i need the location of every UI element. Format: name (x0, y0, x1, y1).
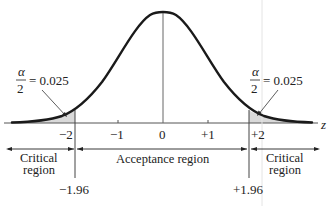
svg-text:= 0.025: = 0.025 (263, 73, 303, 88)
tick-label-plus-1: +1 (201, 127, 215, 142)
right-region-line2: region (269, 163, 302, 177)
svg-text:α: α (252, 64, 260, 79)
axis-variable-label: z (320, 117, 326, 132)
lower-critical-value: −1.96 (59, 182, 90, 197)
left-region-line2: region (23, 163, 56, 177)
left-alpha-label: α 2 = 0.025 (16, 64, 69, 96)
tick-label-minus-1: −1 (110, 127, 124, 142)
acceptance-region-label: Acceptance region (116, 152, 210, 166)
svg-text:α: α (18, 64, 26, 79)
right-alpha-pointer (258, 90, 278, 115)
svg-text:2: 2 (251, 81, 258, 96)
tick-label-plus-2: +2 (251, 127, 265, 142)
left-alpha-pointer (42, 90, 66, 116)
svg-text:2: 2 (17, 81, 24, 96)
svg-text:= 0.025: = 0.025 (29, 73, 69, 88)
upper-critical-value: +1.96 (233, 182, 264, 197)
tick-label-0: 0 (159, 127, 166, 142)
acceptance-arrow (77, 147, 247, 151)
right-alpha-label: α 2 = 0.025 (250, 64, 303, 96)
tick-label-minus-2: −2 (59, 127, 73, 142)
normal-distribution-diagram: α 2 = 0.025 α 2 = 0.025 −2 −1 0 +1 +2 z … (0, 0, 336, 206)
